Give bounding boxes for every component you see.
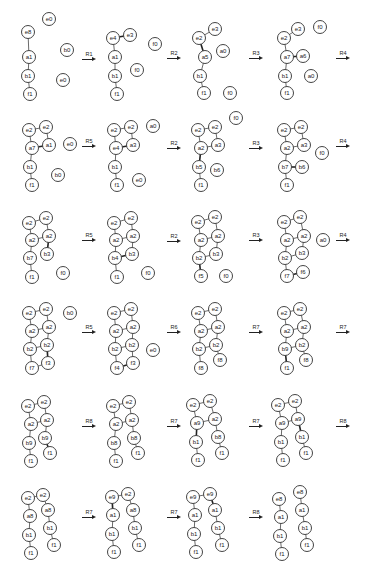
graph-node: b1 bbox=[189, 435, 203, 449]
graph-node: e2 bbox=[208, 210, 222, 224]
graph-node: e2 bbox=[277, 123, 291, 137]
graph-node: e2 bbox=[208, 120, 222, 134]
graph-node: f1 bbox=[280, 86, 294, 100]
graph-node: e2 bbox=[124, 120, 138, 134]
rule-arrow: R6 bbox=[167, 324, 181, 336]
graph-node: f4 bbox=[110, 361, 124, 375]
graph-node: f0 bbox=[56, 266, 70, 280]
rule-arrow: R7 bbox=[167, 418, 181, 430]
graph-node: e9 bbox=[203, 487, 217, 501]
graph-node: e2 bbox=[277, 31, 291, 45]
rule-arrow: R5 bbox=[82, 138, 96, 150]
graph-node: b2 bbox=[192, 342, 206, 356]
graph-node: b0 bbox=[51, 168, 65, 182]
graph-node: e2 bbox=[277, 306, 291, 320]
rule-arrow: R4 bbox=[336, 50, 350, 62]
rule-arrow: R4 bbox=[336, 232, 350, 244]
graph-node: a0 bbox=[216, 44, 230, 58]
rule-arrow: R5 bbox=[82, 324, 96, 336]
graph-node: a3 bbox=[211, 138, 225, 152]
graph-node: b9 bbox=[22, 436, 36, 450]
graph-node: e2 bbox=[39, 211, 53, 225]
rule-arrow: R3 bbox=[249, 50, 263, 62]
graph-node: b1 bbox=[108, 160, 122, 174]
graph-node: a2 bbox=[194, 141, 208, 155]
graph-node: a2 bbox=[24, 417, 38, 431]
graph-node: e2 bbox=[121, 487, 135, 501]
graph-node: f1 bbox=[25, 270, 39, 284]
graph-node: a2 bbox=[208, 412, 222, 426]
graph-node: e3 bbox=[291, 22, 305, 36]
rule-arrow: R5 bbox=[82, 232, 96, 244]
graph-node: f1 bbox=[215, 446, 229, 460]
graph-node: b7 bbox=[23, 251, 37, 265]
arrow-head-icon bbox=[92, 238, 96, 242]
graph-node: b4 bbox=[108, 251, 122, 265]
graph-node: e3 bbox=[208, 22, 222, 36]
graph-node: a1 bbox=[188, 508, 202, 522]
arrow-head-icon bbox=[346, 144, 350, 148]
graph-node: e2 bbox=[192, 31, 206, 45]
arrow-head-icon bbox=[92, 330, 96, 334]
arrow-head-icon bbox=[259, 238, 263, 242]
graph-node: b1 bbox=[43, 521, 57, 535]
rule-arrow: R8 bbox=[249, 509, 263, 521]
arrow-head-icon bbox=[346, 238, 350, 242]
graph-node: a2 bbox=[42, 320, 56, 334]
graph-node: b1 bbox=[105, 527, 119, 541]
graph-node: f1 bbox=[109, 454, 123, 468]
edge-layer bbox=[0, 0, 367, 580]
graph-node: b3 bbox=[125, 247, 139, 261]
graph-node: a9 bbox=[291, 412, 305, 426]
graph-node: a1 bbox=[106, 508, 120, 522]
graph-node: b1 bbox=[193, 69, 207, 83]
graph-node: a2 bbox=[194, 233, 208, 247]
graph-node: a1 bbox=[295, 503, 309, 517]
graph-node: a2 bbox=[211, 320, 225, 334]
graph-node: e2 bbox=[107, 123, 121, 137]
graph-node: e2 bbox=[39, 120, 53, 134]
graph-node: f0 bbox=[141, 266, 155, 280]
graph-node: b2 bbox=[125, 338, 139, 352]
graph-node: e8 bbox=[293, 485, 307, 499]
graph-node: a1 bbox=[108, 50, 122, 64]
graph-node: a6 bbox=[296, 49, 310, 63]
graph-node: f1 bbox=[110, 87, 124, 101]
rule-arrow: R7 bbox=[82, 509, 96, 521]
graph-node: f0 bbox=[223, 86, 237, 100]
graph-node: f1 bbox=[107, 545, 121, 559]
arrow-head-icon bbox=[177, 330, 181, 334]
graph-node: e8 bbox=[272, 492, 286, 506]
rule-arrow: R2 bbox=[167, 50, 181, 62]
graph-node: b8 bbox=[211, 430, 225, 444]
arrow-head-icon bbox=[177, 239, 181, 243]
rule-arrow: R3 bbox=[249, 140, 263, 152]
graph-node: a9 bbox=[190, 416, 204, 430]
graph-node: e2 bbox=[39, 302, 53, 316]
graph-node: f5 bbox=[194, 269, 208, 283]
graph-node: e2 bbox=[37, 395, 51, 409]
graph-node: f1 bbox=[280, 178, 294, 192]
graph-node: f1 bbox=[25, 178, 39, 192]
graph-node: b1 bbox=[128, 521, 142, 535]
graph-node: a2 bbox=[297, 320, 311, 334]
graph-node: b1 bbox=[22, 528, 36, 542]
graph-node: e8 bbox=[21, 25, 35, 39]
rule-arrow: R7 bbox=[336, 324, 350, 336]
graph-node: f1 bbox=[131, 446, 145, 460]
graph-node: a0 bbox=[304, 69, 318, 83]
rule-arrow: R2 bbox=[167, 140, 181, 152]
graph-node: a0 bbox=[316, 233, 330, 247]
graph-node: b1 bbox=[187, 527, 201, 541]
graph-node: e2 bbox=[22, 216, 36, 230]
arrow-head-icon bbox=[259, 330, 263, 334]
graph-node: e0 bbox=[146, 343, 160, 357]
graph-node: e2 bbox=[191, 123, 205, 137]
graph-node: a2 bbox=[280, 233, 294, 247]
graph-node: e2 bbox=[122, 395, 136, 409]
graph-node: a2 bbox=[25, 324, 39, 338]
graph-node: b0 bbox=[60, 43, 74, 57]
arrow-head-icon bbox=[177, 146, 181, 150]
graph-node: e2 bbox=[22, 306, 36, 320]
graph-node: e2 bbox=[191, 215, 205, 229]
